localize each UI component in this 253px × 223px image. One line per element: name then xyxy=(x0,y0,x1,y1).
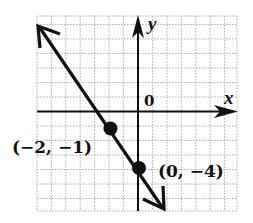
origin-label: 0 xyxy=(144,92,154,110)
x-axis-label: x xyxy=(223,87,234,108)
point-b xyxy=(132,161,146,175)
point-b-label: (0, −4) xyxy=(158,161,224,181)
point-a-label: (−2, −1) xyxy=(12,137,92,157)
y-axis xyxy=(132,15,144,211)
point-a xyxy=(104,122,118,136)
coordinate-plane: y x 0 (−2, −1) (0, −4) xyxy=(0,0,253,223)
y-axis-label: y xyxy=(146,13,157,34)
